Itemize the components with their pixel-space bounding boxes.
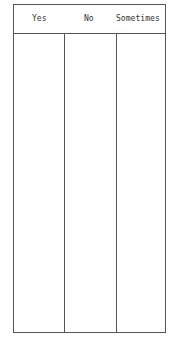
column-cell-sometimes[interactable] [117, 34, 165, 332]
table-header: Yes No Sometimes [14, 5, 165, 34]
column-header-no: No [84, 12, 94, 23]
column-header-yes: Yes [32, 12, 47, 23]
column-cell-no[interactable] [65, 34, 116, 332]
column-cell-yes[interactable] [14, 34, 64, 332]
response-table: Yes No Sometimes [13, 4, 166, 333]
column-header-sometimes: Sometimes [116, 12, 160, 23]
